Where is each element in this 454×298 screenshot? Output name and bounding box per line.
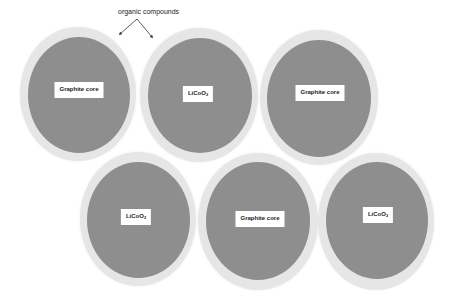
particle-label: LiCoO2 <box>183 86 213 102</box>
particle-label: Graphite core <box>235 211 284 227</box>
particle-label: LiCoO2 <box>121 209 151 225</box>
arrow-left-icon <box>120 19 137 34</box>
arrow-right-icon <box>137 19 152 37</box>
particle-label: Graphite core <box>295 85 344 101</box>
particle-label: LiCoO2 <box>363 207 393 223</box>
particle-label: Graphite core <box>54 82 103 98</box>
